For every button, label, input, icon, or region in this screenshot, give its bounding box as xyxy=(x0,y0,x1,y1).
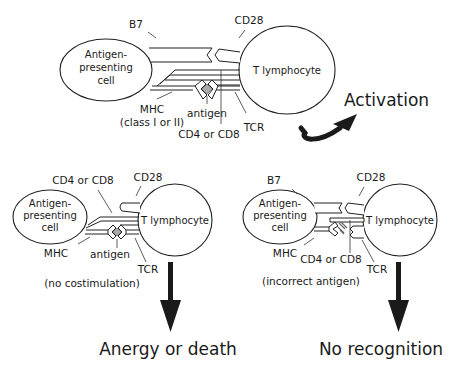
apc-label-line1: Antigen- xyxy=(85,49,128,60)
label-cd28: CD28 xyxy=(357,171,386,183)
apc-label-line3: cell xyxy=(271,222,288,233)
label-antigen: antigen xyxy=(90,248,130,260)
label-cd28: CD28 xyxy=(134,171,163,183)
t-cell-activation-diagram: Antigen- presenting cell T lymphocyte B7… xyxy=(0,0,451,372)
mhc-binding-site xyxy=(329,222,338,236)
outcome-no-recognition: No recognition xyxy=(319,339,443,359)
tcr-binding-site xyxy=(350,226,364,238)
down-arrow-icon xyxy=(160,262,181,332)
b7-molecule xyxy=(149,48,212,62)
cd28-molecule xyxy=(120,203,140,213)
condition-incorrect-antigen: (incorrect antigen) xyxy=(262,275,360,287)
t-lymphocyte-label: T lymphocyte xyxy=(252,65,321,76)
apc-label-line2: presenting xyxy=(79,62,132,73)
apc-label-line3: cell xyxy=(97,75,114,86)
label-mhc-class: (class I or II) xyxy=(120,116,184,128)
outcome-activation: Activation xyxy=(344,90,429,110)
apc-label-line3: cell xyxy=(41,222,58,233)
label-mhc: MHC xyxy=(140,103,164,115)
t-lymphocyte-label: T lymphocyte xyxy=(365,215,434,226)
label-cd28: CD28 xyxy=(235,14,264,26)
cd28-molecule xyxy=(215,49,240,63)
curved-arrow-icon xyxy=(301,114,357,139)
label-b7: B7 xyxy=(129,18,143,30)
t-lymphocyte-label: T lymphocyte xyxy=(140,215,209,226)
condition-no-costimulation: (no costimulation) xyxy=(44,277,140,289)
down-arrow-icon xyxy=(388,262,409,332)
label-tcr: TCR xyxy=(243,121,264,133)
incorrect-antigen xyxy=(338,222,347,234)
label-cd4-cd8: CD4 or CD8 xyxy=(52,174,114,186)
apc-label-line1: Antigen- xyxy=(29,198,72,209)
bottom-left-panel-no-costimulation: Antigen- presenting cell T lymphocyte CD… xyxy=(13,171,237,359)
label-mhc: MHC xyxy=(44,247,68,259)
label-tcr: TCR xyxy=(137,263,158,275)
label-cd4-cd8: CD4 or CD8 xyxy=(300,253,362,265)
b7-molecule xyxy=(314,203,342,213)
label-b7: B7 xyxy=(267,174,281,186)
apc-label-line2: presenting xyxy=(253,210,306,221)
bottom-right-panel-incorrect-antigen: Antigen- presenting cell T lymphocyte B7… xyxy=(243,171,443,359)
label-mhc: MHC xyxy=(273,247,297,259)
outcome-anergy-or-death: Anergy or death xyxy=(99,339,237,359)
apc-label-line2: presenting xyxy=(23,210,76,221)
label-tcr: TCR xyxy=(366,263,387,275)
apc-label-line1: Antigen- xyxy=(259,198,302,209)
cd28-molecule xyxy=(345,203,364,215)
label-cd4-cd8: CD4 or CD8 xyxy=(178,128,240,140)
top-panel-activation: Antigen- presenting cell T lymphocyte B7… xyxy=(60,14,429,140)
